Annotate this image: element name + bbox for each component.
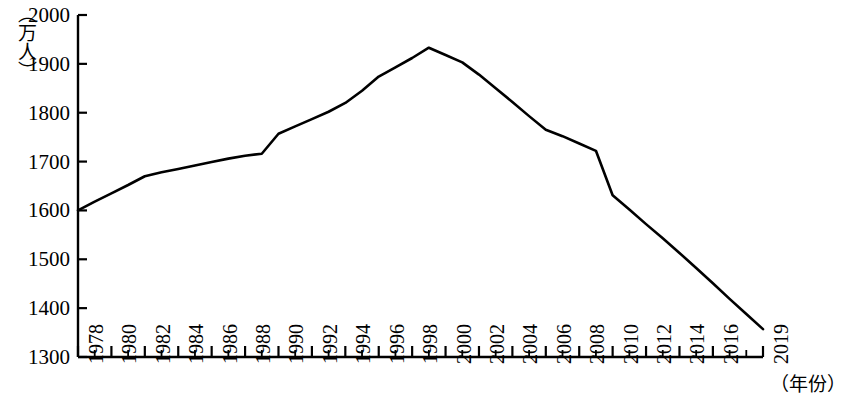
x-axis-tick-label: 2000 — [454, 324, 474, 364]
x-axis-tick-label: 2006 — [554, 324, 574, 364]
y-axis-tick-label: 1600 — [8, 200, 70, 221]
x-axis-tick-label: 2002 — [487, 324, 507, 364]
y-axis-tick-label: 1800 — [8, 103, 70, 124]
x-axis-tick-label: 1990 — [286, 324, 306, 364]
population-line-chart: （万人） （年份） 130014001500160017001800190020… — [0, 0, 853, 407]
x-axis-tick-label: 1980 — [119, 324, 139, 364]
x-axis-tick-label: 2019 — [771, 324, 791, 364]
x-axis-tick-label: 2004 — [520, 324, 540, 364]
x-axis-tick-label: 1978 — [86, 324, 106, 364]
x-axis-tick-label: 1992 — [320, 324, 340, 364]
y-axis-tick-label: 1700 — [8, 152, 70, 173]
y-axis-tick-label: 1400 — [8, 298, 70, 319]
x-axis-tick-label: 2016 — [721, 324, 741, 364]
x-axis-tick-label: 2014 — [687, 324, 707, 364]
x-axis-tick-label: 1998 — [420, 324, 440, 364]
x-axis-tick-label: 1988 — [253, 324, 273, 364]
x-axis-tick-label: 2010 — [621, 324, 641, 364]
x-axis-tick-label: 2012 — [654, 324, 674, 364]
y-axis-tick-label: 1300 — [8, 347, 70, 368]
x-axis-tick-label: 1996 — [387, 324, 407, 364]
data-series-line — [78, 48, 763, 329]
x-axis-tick-label: 1986 — [220, 324, 240, 364]
x-axis-tick-label: 2008 — [587, 324, 607, 364]
y-axis-tick-label: 2000 — [8, 5, 70, 26]
x-axis-tick-label: 1982 — [153, 324, 173, 364]
axis-lines — [78, 15, 763, 357]
x-axis-tick-label: 1994 — [353, 324, 373, 364]
y-axis-ticks — [78, 15, 87, 357]
y-axis-tick-label: 1900 — [8, 54, 70, 75]
x-axis-tick-label: 1984 — [186, 324, 206, 364]
y-axis-tick-label: 1500 — [8, 249, 70, 270]
